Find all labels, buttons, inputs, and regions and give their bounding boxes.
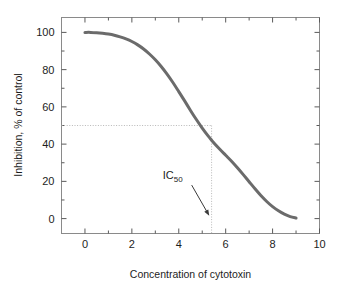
y-tick-label: 60: [42, 101, 54, 113]
x-axis-title: Concentration of cytotoxin: [130, 268, 252, 280]
y-tick-label: 40: [42, 138, 54, 150]
dose-response-chart: 0246810 020406080100 IC50 Concentration …: [0, 0, 341, 289]
x-tick-label: 10: [313, 238, 325, 250]
y-tick-label: 100: [36, 26, 54, 38]
ic50-label-main: IC: [163, 169, 174, 181]
chart-figure: 0246810 020406080100 IC50 Concentration …: [0, 0, 341, 289]
x-tick-label: 0: [82, 238, 88, 250]
x-tick-label: 6: [223, 238, 229, 250]
x-tick-label: 8: [270, 238, 276, 250]
x-tick-label: 4: [176, 238, 182, 250]
y-tick-label: 20: [42, 175, 54, 187]
y-axis-title: Inhibition, % of control: [12, 73, 24, 176]
y-tick-label: 80: [42, 64, 54, 76]
y-tick-label: 0: [48, 213, 54, 225]
x-tick-label: 2: [129, 238, 135, 250]
ic50-label-subscript: 50: [174, 175, 183, 184]
